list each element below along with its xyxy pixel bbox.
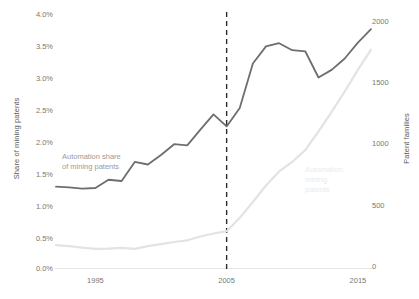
plot-area [0,0,419,299]
chart-container: Share of mining patents Patent families … [0,0,419,299]
patent-families-line [56,50,371,249]
automation-mining-patents-annotation: Automation mining patents [305,165,343,195]
automation-share-annotation: Automation share of mining patents [62,152,121,172]
